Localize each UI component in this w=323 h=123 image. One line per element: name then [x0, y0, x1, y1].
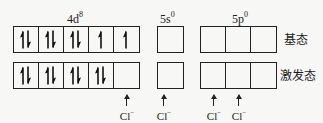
up-arrow-icon [126, 95, 127, 106]
up-arrow-icon [213, 95, 214, 106]
electron-spin-arrows-icon [0, 0, 323, 123]
ligand-label: Cl− [229, 108, 249, 122]
ligand-symbol: Cl [232, 110, 242, 122]
up-arrow-icon [163, 95, 164, 106]
ligand-charge: − [167, 109, 171, 117]
ligand-charge: − [130, 109, 134, 117]
ligand-symbol: Cl [207, 110, 217, 122]
ligand-charge: − [217, 109, 221, 117]
ligand-symbol: Cl [120, 110, 130, 122]
ligand-charge: − [242, 109, 246, 117]
ligand-label: Cl− [154, 108, 174, 122]
ligand-symbol: Cl [157, 110, 167, 122]
ligand-label: Cl− [204, 108, 224, 122]
ligand-label: Cl− [117, 108, 137, 122]
up-arrow-icon [238, 95, 239, 106]
